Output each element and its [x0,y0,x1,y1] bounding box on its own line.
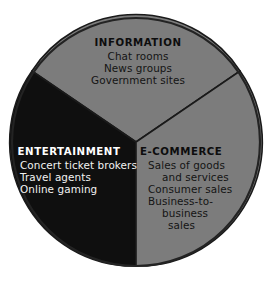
list-item: Concert ticket brokers [20,160,130,170]
slice-title-ecommerce: E-COMMERCE [140,147,244,157]
list-item: Travel agents [20,172,130,182]
slice-label-ecommerce: E-COMMERCE Sales of goods and services C… [140,147,244,232]
list-item: Government sites [68,75,208,85]
slice-items-ecommerce: Sales of goods and services Consumer sal… [140,160,244,230]
list-item: Chat rooms [68,51,208,61]
slice-title-entertainment: ENTERTAINMENT [8,147,130,157]
list-item: Business-to- [148,196,244,206]
list-item: sales [148,220,244,230]
list-item: Consumer sales [148,184,244,194]
slice-items-information: Chat rooms News groups Government sites [68,51,208,85]
list-item: News groups [68,63,208,73]
pie-chart: INFORMATION Chat rooms News groups Gover… [0,0,280,281]
list-item: business [148,208,244,218]
slice-title-information: INFORMATION [68,38,208,48]
slice-items-entertainment: Concert ticket brokers Travel agents Onl… [8,160,130,194]
list-item: and services [148,172,244,182]
list-item: Online gaming [20,184,130,194]
slice-label-entertainment: ENTERTAINMENT Concert ticket brokers Tra… [8,147,130,196]
list-item: Sales of goods [148,160,244,170]
slice-label-information: INFORMATION Chat rooms News groups Gover… [68,38,208,87]
